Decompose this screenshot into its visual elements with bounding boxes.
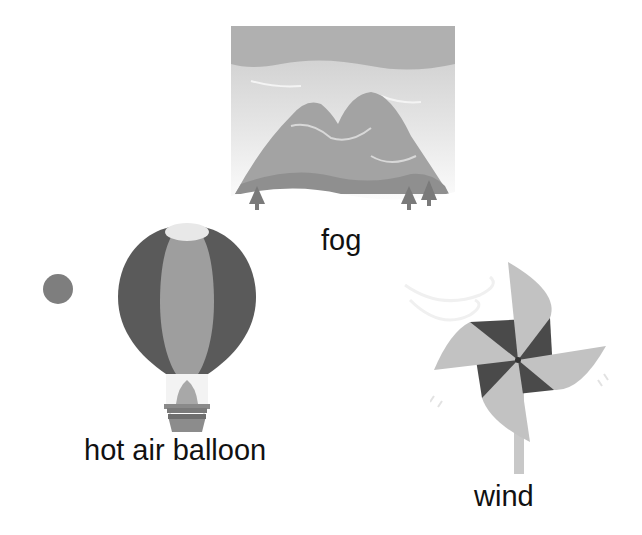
fog-image	[231, 26, 455, 212]
fog-label: fog	[321, 226, 361, 255]
wind-label: wind	[474, 482, 534, 511]
pinwheel-icon	[430, 262, 610, 482]
hot-air-balloon-image	[116, 222, 258, 434]
gray-dot-icon	[43, 274, 73, 304]
hot-air-balloon-label: hot air balloon	[84, 436, 266, 465]
hot-air-balloon-icon	[116, 222, 258, 434]
fog-mountains-icon	[231, 26, 455, 212]
wind-image	[430, 262, 610, 482]
